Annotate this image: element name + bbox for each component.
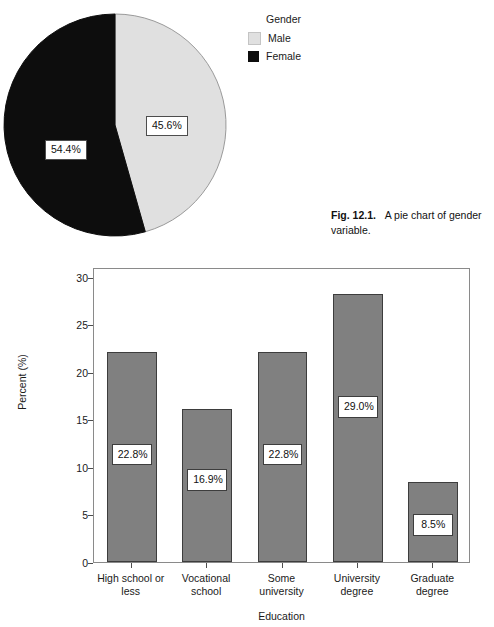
y-axis-tick-label: 15 [76, 415, 88, 426]
x-axis-category-label: Vocationalschool [168, 572, 243, 598]
y-axis-tick-label: 25 [76, 320, 88, 331]
x-axis-title: Education [93, 610, 470, 622]
pie-legend-title: Gender [266, 14, 301, 25]
bar-value-label: 16.9% [187, 469, 227, 491]
bar-plot-area: 22.8%16.9%22.8%29.0%8.5% [93, 268, 470, 563]
y-axis-tick-labels: 051015202530 [58, 268, 88, 563]
x-axis-tick-marks [93, 563, 470, 568]
x-axis-category-label: Universitydegree [319, 572, 394, 598]
bar-value-label: 29.0% [338, 396, 378, 418]
legend-item-male: Male [248, 32, 301, 45]
bar-chart-figure: 051015202530 Percent (%) 22.8%16.9%22.8%… [0, 250, 494, 627]
legend-label-female: Female [266, 51, 301, 62]
pie-value-label-female: 54.4% [45, 140, 87, 160]
pie-chart-figure: 54.4% 45.6% Gender Male Female Fig. 12.1… [0, 0, 494, 250]
legend-item-female: Female [248, 51, 301, 62]
x-axis-category-label: High school orless [93, 572, 168, 598]
legend-swatch-male-icon [248, 32, 261, 45]
figure-caption: Fig. 12.1. A pie chart of gender variabl… [331, 208, 494, 238]
x-axis-tick-mark [206, 563, 207, 568]
y-axis-tick-label: 10 [76, 463, 88, 474]
bar-value-label: 22.8% [112, 444, 152, 466]
bar [333, 294, 383, 562]
x-axis-tick-mark [131, 563, 132, 568]
bar-value-label: 8.5% [413, 514, 453, 536]
x-axis-tick-mark [282, 563, 283, 568]
y-axis-tick-label: 20 [76, 367, 88, 378]
figure-caption-number: Fig. 12.1. [331, 209, 376, 221]
legend-swatch-female-icon [248, 51, 259, 62]
x-axis-category-label: Graduatedegree [395, 572, 470, 598]
bar-value-label: 22.8% [263, 444, 303, 466]
pie-legend: Gender Male Female [248, 14, 301, 68]
y-axis-title: Percent (%) [16, 327, 28, 437]
y-axis-tick-label: 30 [76, 272, 88, 283]
legend-label-male: Male [268, 33, 291, 44]
pie-value-label-male: 45.6% [146, 116, 188, 136]
x-axis-tick-mark [432, 563, 433, 568]
x-axis-tick-mark [357, 563, 358, 568]
x-axis-category-label: Someuniversity [244, 572, 319, 598]
bars-layer: 22.8%16.9%22.8%29.0%8.5% [94, 269, 469, 562]
pie-chart-graphic [2, 12, 232, 242]
